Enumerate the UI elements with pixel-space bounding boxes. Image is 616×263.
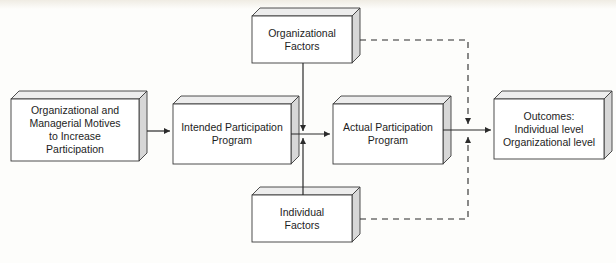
node-org-factors xyxy=(252,8,360,63)
node-motives xyxy=(11,91,147,161)
diagram-graphics xyxy=(0,0,616,263)
node-ind-factors xyxy=(252,187,360,242)
node-outcomes xyxy=(494,91,612,159)
node-intended xyxy=(173,96,299,164)
diagram-canvas: Organizational and Managerial Motives to… xyxy=(0,0,616,263)
node-actual xyxy=(333,96,451,164)
